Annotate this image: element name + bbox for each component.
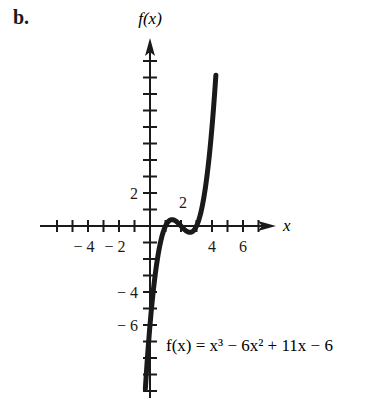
y-tick-label: − 6 (117, 317, 138, 334)
x-tick-label: − 2 (104, 238, 125, 255)
y-tick-label: 2 (130, 185, 138, 202)
x-tick-label: 6 (239, 238, 247, 255)
equation-label: f(x) = x³ − 6x² + 11x − 6 (166, 336, 333, 355)
y-axis-label: f(x) (138, 9, 162, 28)
tick-labels: − 4− 24622− 4− 6 (73, 185, 247, 334)
function-graph: − 4− 24622− 4− 6 x f(x) f(x) = x³ − 6x² … (0, 0, 392, 402)
x-tick-label: 4 (208, 238, 216, 255)
x-tick-label: 2 (179, 194, 187, 211)
x-tick-label: − 4 (73, 238, 94, 255)
y-tick-label: − 4 (117, 284, 138, 301)
x-axis-label: x (282, 216, 291, 235)
